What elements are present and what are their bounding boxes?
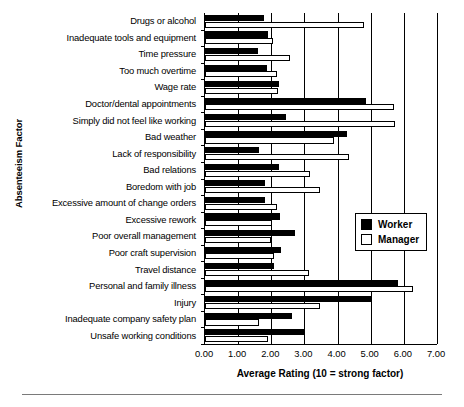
bar-manager [205, 55, 290, 61]
bar-manager [205, 220, 272, 226]
legend-swatch-manager-icon [361, 234, 372, 245]
bar-worker [205, 15, 264, 21]
bar-worker [205, 247, 281, 253]
x-axis-tick-labels: 0.001.002.003.004.005.006.007.00 [204, 348, 436, 362]
legend-label-manager: Manager [378, 234, 419, 245]
bar-group [205, 261, 437, 278]
bar-group [205, 79, 437, 96]
category-label-list: Drugs or alcoholInadequate tools and equ… [14, 13, 200, 344]
gridline [437, 13, 438, 344]
category-label: Bad relations [143, 165, 196, 175]
category-label: Poor craft supervision [109, 248, 196, 258]
bar-worker [205, 280, 398, 286]
plot-area [204, 13, 437, 345]
bar-group [205, 30, 437, 47]
bar-group [205, 145, 437, 162]
x-tick-label: 4.00 [327, 348, 345, 359]
chart-legend: Worker Manager [355, 213, 427, 251]
bar-worker [205, 98, 366, 104]
category-label: Poor overall management [92, 231, 196, 241]
bar-worker [205, 329, 305, 335]
footer-divider [22, 394, 442, 395]
bar-worker [205, 213, 280, 219]
category-label: Time pressure [138, 49, 196, 59]
bar-manager [205, 204, 277, 210]
bar-group [205, 195, 437, 212]
y-tick-mark [201, 344, 205, 345]
bar-worker [205, 147, 259, 153]
bar-manager [205, 253, 274, 259]
category-label: Too much overtime [119, 66, 196, 76]
bar-worker [205, 114, 286, 120]
legend-item-manager: Manager [361, 232, 419, 247]
bar-worker [205, 81, 279, 87]
bar-group [205, 129, 437, 146]
bar-worker [205, 230, 295, 236]
bar-worker [205, 263, 274, 269]
x-tick-label: 3.00 [294, 348, 312, 359]
bar-manager [205, 137, 334, 143]
x-tick-label: 7.00 [427, 348, 445, 359]
category-label: Lack of responsibility [112, 149, 196, 159]
x-tick-label: 1.00 [228, 348, 246, 359]
x-tick-label: 5.00 [361, 348, 379, 359]
bar-manager [205, 154, 349, 160]
category-label: Boredom with job [126, 182, 196, 192]
absenteeism-factor-bar-chart: Absenteeism Factor Drugs or alcoholInade… [0, 0, 464, 407]
legend-item-worker: Worker [361, 217, 419, 232]
legend-label-worker: Worker [378, 219, 412, 230]
category-label: Simply did not feel like working [73, 116, 196, 126]
bar-manager [205, 22, 364, 28]
bar-group [205, 112, 437, 129]
bar-group [205, 96, 437, 113]
bar-group [205, 294, 437, 311]
category-label: Unsafe working conditions [90, 331, 196, 341]
bar-group [205, 162, 437, 179]
bar-group [205, 311, 437, 328]
bar-worker [205, 164, 279, 170]
category-label: Travel distance [135, 265, 196, 275]
x-tick-label: 0.00 [195, 348, 213, 359]
bar-manager [205, 319, 259, 325]
x-tick-label: 6.00 [394, 348, 412, 359]
legend-swatch-worker-icon [361, 219, 372, 230]
bar-worker [205, 197, 265, 203]
bar-group [205, 13, 437, 30]
bar-worker [205, 313, 292, 319]
category-label: Inadequate company safety plan [65, 314, 196, 324]
bar-worker [205, 180, 265, 186]
category-label: Drugs or alcohol [130, 16, 196, 26]
category-label: Doctor/dental appointments [85, 99, 196, 109]
bar-worker [205, 65, 267, 71]
x-axis-title: Average Rating (10 = strong factor) [180, 368, 460, 379]
bar-worker [205, 296, 372, 302]
bar-group [205, 278, 437, 295]
bar-manager [205, 187, 320, 193]
bar-group [205, 327, 437, 344]
bar-manager [205, 171, 310, 177]
category-label: Injury [174, 298, 196, 308]
bar-worker [205, 131, 347, 137]
category-label: Excessive amount of change orders [52, 198, 196, 208]
bar-manager [205, 270, 309, 276]
bar-worker [205, 31, 268, 37]
category-label: Excessive rework [125, 215, 196, 225]
bar-manager [205, 336, 268, 342]
category-label: Personal and family illness [89, 281, 196, 291]
category-label: Bad weather [145, 132, 196, 142]
bar-manager [205, 71, 277, 77]
bar-worker [205, 48, 258, 54]
bar-manager [205, 237, 271, 243]
bar-group [205, 46, 437, 63]
category-label: Wage rate [154, 82, 196, 92]
bar-manager [205, 88, 278, 94]
bar-group [205, 179, 437, 196]
x-tick-label: 2.00 [261, 348, 279, 359]
category-label: Inadequate tools and equipment [67, 33, 196, 43]
bar-manager [205, 38, 273, 44]
bar-manager [205, 286, 413, 292]
bar-manager [205, 104, 394, 110]
bar-manager [205, 303, 320, 309]
bar-group [205, 63, 437, 80]
bar-manager [205, 121, 395, 127]
